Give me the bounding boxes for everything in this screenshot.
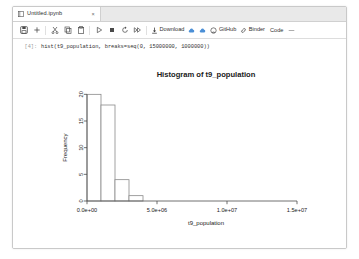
histogram-chart: Histogram of t9_population051015200.0e+0… (41, 61, 339, 243)
restart-run-all-icon[interactable] (131, 24, 144, 37)
add-cell-icon[interactable] (30, 24, 43, 37)
link-icon (240, 27, 247, 34)
y-tick-label: 5 (78, 173, 84, 176)
stop-icon[interactable] (105, 24, 118, 37)
close-icon[interactable]: × (90, 11, 96, 17)
github-label: GitHub (219, 27, 236, 33)
notebook-body: [4]: hist(t9_population, breaks=seq(0, 1… (13, 39, 346, 248)
tab-title: Untitled.ipynb (27, 11, 62, 17)
toolbar-separator-3 (146, 26, 147, 35)
github-button[interactable]: GitHub (208, 24, 238, 37)
restart-icon[interactable] (118, 24, 131, 37)
toolbar-separator-2 (89, 26, 90, 35)
chevron-down-icon[interactable] (286, 24, 296, 36)
x-tick-label: 0.0e+00 (77, 207, 97, 213)
x-axis-label: t9_population (188, 220, 224, 226)
toolbar-separator-1 (45, 26, 46, 35)
chart-title: Histogram of t9_population (157, 70, 256, 79)
paste-icon[interactable] (74, 24, 87, 37)
y-tick-label: 15 (78, 118, 84, 124)
binder-button[interactable]: Binder (238, 24, 267, 37)
histogram-bar (115, 180, 129, 201)
notebook-icon (18, 11, 24, 17)
x-tick-label: 1.5e+07 (287, 207, 307, 213)
tab-bar: Untitled.ipynb × (13, 7, 346, 22)
cloud-upload-button[interactable] (186, 24, 197, 37)
histogram-bar (101, 105, 115, 201)
y-axis-label: Frequency (62, 133, 68, 161)
cloud-download-icon (199, 27, 206, 34)
download-label: Download (160, 27, 185, 33)
github-icon (210, 27, 217, 34)
cloud-download-button[interactable] (197, 24, 208, 37)
y-tick-label: 20 (78, 91, 84, 97)
cut-icon[interactable] (48, 24, 61, 37)
cloud-upload-icon (188, 27, 195, 34)
y-tick-label: 0 (78, 199, 84, 202)
run-icon[interactable] (92, 24, 105, 37)
cell-type-select[interactable]: Code (267, 24, 286, 36)
notebook-window: Untitled.ipynb × (12, 6, 347, 249)
x-tick-label: 1.0e+07 (217, 207, 237, 213)
copy-icon[interactable] (61, 24, 74, 37)
histogram-bar (129, 196, 143, 201)
tab-untitled-ipynb[interactable]: Untitled.ipynb × (13, 6, 101, 21)
plot-output: Histogram of t9_population051015200.0e+0… (41, 61, 339, 243)
histogram-bar (87, 94, 101, 201)
x-tick-label: 5.0e+06 (147, 207, 167, 213)
binder-label: Binder (249, 27, 265, 33)
screen: Untitled.ipynb × (0, 0, 359, 259)
code-cell[interactable]: [4]: hist(t9_population, breaks=seq(0, 1… (13, 43, 346, 52)
y-tick-label: 10 (78, 145, 84, 151)
cell-prompt: [4]: (19, 43, 41, 52)
cell-source[interactable]: hist(t9_population, breaks=seq(0, 150000… (41, 43, 210, 52)
download-button[interactable]: Download (149, 24, 186, 37)
download-icon (151, 27, 158, 34)
toolbar: Download (13, 22, 346, 39)
save-icon[interactable] (17, 24, 30, 37)
